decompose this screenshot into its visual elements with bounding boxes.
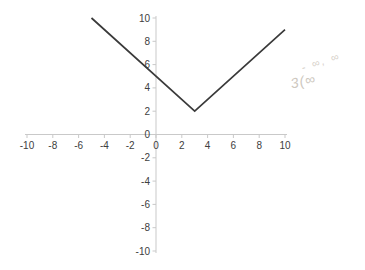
chart-svg: -10-8-6-4-202468101086420-2-4-6-8-10 [0,0,365,270]
x-axis-tick-label: -2 [126,140,135,151]
y-axis-tick-label: 8 [144,36,150,47]
y-axis-tick-label: 10 [139,13,151,24]
y-axis-tick-label: -8 [141,222,150,233]
x-axis-tick-label: 0 [153,140,159,151]
y-axis-tick-label: 4 [144,82,150,93]
x-axis-tick-label: 2 [179,140,185,151]
y-axis-tick-label: -6 [141,199,150,210]
y-axis-tick-label: -2 [141,152,150,163]
y-axis-tick-label: 2 [144,106,150,117]
v-shaped-curve [92,18,286,111]
y-axis-tick-label: -4 [141,176,150,187]
x-axis-tick-label: -4 [100,140,109,151]
x-axis-tick-label: 6 [231,140,237,151]
y-axis-tick-label: 0 [144,129,150,140]
x-axis-tick-label: 10 [279,140,291,151]
x-axis-tick-label: -10 [20,140,35,151]
y-axis-tick-label: -10 [136,246,151,257]
x-axis-tick-label: 4 [205,140,211,151]
x-axis-tick-label: -8 [48,140,57,151]
chart-page: -10-8-6-4-202468101086420-2-4-6-8-10 - ∞… [0,0,365,270]
x-axis-tick-label: 8 [256,140,262,151]
x-axis-tick-label: -6 [74,140,83,151]
